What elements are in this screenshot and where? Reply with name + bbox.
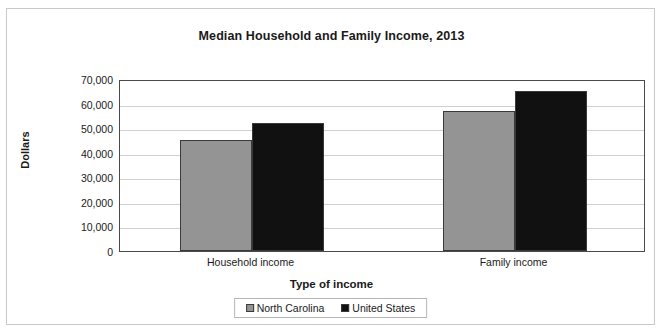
y-axis-tick-label: 50,000 bbox=[51, 123, 113, 135]
legend-item[interactable]: North Carolina bbox=[246, 302, 325, 314]
x-axis-title: Type of income bbox=[7, 278, 656, 290]
chart-title: Median Household and Family Income, 2013 bbox=[7, 29, 656, 43]
y-axis-tick-label: 0 bbox=[51, 246, 113, 258]
legend-label: North Carolina bbox=[257, 302, 325, 314]
y-axis-tick-label: 30,000 bbox=[51, 172, 113, 184]
y-axis-tick-labels: 70,00060,00050,00040,00030,00020,00010,0… bbox=[51, 80, 113, 252]
y-axis-tick-label: 10,000 bbox=[51, 221, 113, 233]
bar bbox=[443, 111, 515, 251]
bar bbox=[180, 140, 252, 251]
y-axis-tick-label: 60,000 bbox=[51, 99, 113, 111]
legend-label: United States bbox=[352, 302, 415, 314]
x-axis-tick-label: Household income bbox=[207, 256, 294, 268]
y-axis-tick-label: 40,000 bbox=[51, 148, 113, 160]
y-axis-tick-label: 20,000 bbox=[51, 197, 113, 209]
chart-figure: Median Household and Family Income, 2013… bbox=[6, 8, 655, 325]
bar bbox=[515, 91, 587, 251]
bar bbox=[252, 123, 324, 251]
y-axis-tick-label: 70,000 bbox=[51, 74, 113, 86]
legend-swatch-icon bbox=[246, 304, 254, 312]
legend-item[interactable]: United States bbox=[341, 302, 415, 314]
x-axis-tick-label: Family income bbox=[480, 256, 548, 268]
y-axis-title: Dollars bbox=[19, 105, 31, 195]
plot-area bbox=[119, 80, 645, 252]
chart-legend: North CarolinaUnited States bbox=[234, 298, 428, 318]
legend-swatch-icon bbox=[341, 304, 349, 312]
